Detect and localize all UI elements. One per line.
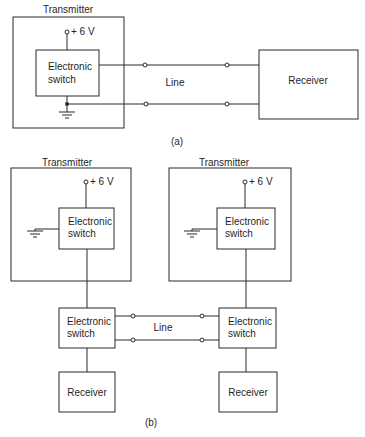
right-rx-switch-line2: switch — [228, 328, 256, 339]
diagram-a: Transmitter + 6 V Electronic switch Line… — [13, 4, 358, 147]
terminal-icon — [200, 314, 204, 318]
line-label: Line — [154, 322, 173, 333]
left-transmitter-label: Transmitter — [42, 157, 93, 168]
terminal-icon — [131, 338, 135, 342]
terminal-icon — [131, 314, 135, 318]
left-receiver-label: Receiver — [67, 387, 107, 398]
right-tx-switch-line1: Electronic — [225, 216, 269, 227]
right-supply-label: + 6 V — [249, 176, 273, 187]
supply-terminal-icon — [243, 180, 247, 184]
terminal-icon — [143, 63, 147, 67]
caption-b: (b) — [145, 417, 157, 428]
circuit-diagram: Transmitter + 6 V Electronic switch Line… — [0, 0, 365, 437]
terminal-icon — [225, 102, 229, 106]
terminal-icon — [200, 338, 204, 342]
switch-label-line1: Electronic — [48, 61, 92, 72]
switch-label-line2: switch — [48, 74, 76, 85]
electronic-switch-box — [36, 50, 99, 96]
left-tx-switch-line1: Electronic — [68, 216, 112, 227]
diagram-b: Transmitter + 6 V Electronic switch Tran… — [11, 157, 291, 428]
terminal-icon — [144, 102, 148, 106]
right-tx-switch-line2: switch — [225, 228, 253, 239]
left-tx-switch-line2: switch — [68, 228, 96, 239]
receiver-label: Receiver — [288, 75, 328, 86]
supply-terminal-icon — [65, 30, 69, 34]
right-transmitter-label: Transmitter — [199, 157, 250, 168]
line-label: Line — [166, 77, 185, 88]
supply-terminal-icon — [84, 180, 88, 184]
transmitter-label: Transmitter — [43, 4, 94, 15]
right-receiver-label: Receiver — [228, 387, 268, 398]
left-rx-switch-line2: switch — [67, 328, 95, 339]
left-rx-switch-line1: Electronic — [67, 316, 111, 327]
terminal-icon — [225, 63, 229, 67]
left-supply-label: + 6 V — [90, 176, 114, 187]
supply-label: + 6 V — [71, 26, 95, 37]
right-rx-switch-line1: Electronic — [228, 316, 272, 327]
caption-a: (a) — [171, 136, 183, 147]
